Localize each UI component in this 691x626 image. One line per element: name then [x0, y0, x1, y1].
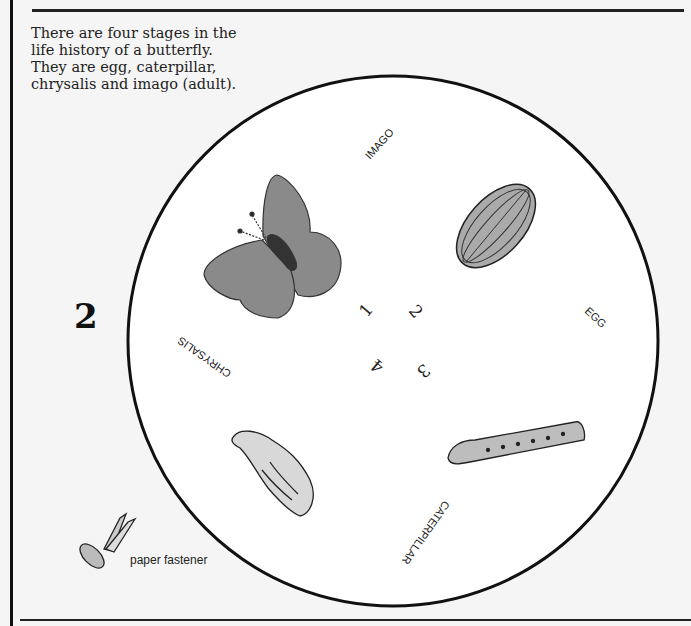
wheel-circle — [128, 76, 658, 606]
paper-fastener-icon — [76, 514, 135, 572]
page-number: 2 — [74, 296, 98, 336]
life-cycle-wheel-figure: IMAGO EGG CATERPILLAR CHRYSALIS 1 2 3 4 — [0, 0, 691, 626]
fastener-label: paper fastener — [130, 553, 207, 567]
